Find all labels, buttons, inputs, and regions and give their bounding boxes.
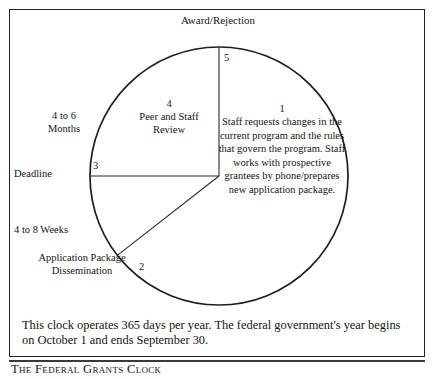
segment-4-text: 4 Peer and Staff Review — [112, 98, 226, 136]
boundary-number-3: 3 — [93, 160, 98, 171]
label-application-package-dissemination: Application Package Dissemination — [12, 252, 152, 278]
figure-note: This clock operates 365 days per year. T… — [22, 318, 414, 349]
figure-caption: The Federal Grants Clock — [11, 362, 311, 377]
radius-line-2 — [117, 176, 219, 255]
label-award-rejection: Award/Rejection — [118, 14, 318, 27]
segment-1-text: 1 Staff requests changes in the current … — [216, 102, 348, 196]
boundary-number-5: 5 — [224, 52, 229, 63]
label-4-to-8-weeks: 4 to 8 Weeks — [14, 224, 114, 237]
boundary-number-2: 2 — [139, 261, 144, 272]
label-deadline: Deadline — [14, 168, 94, 181]
label-4-to-6-months: 4 to 6 Months — [18, 110, 110, 136]
federal-grants-clock-figure: Award/Rejection 4 to 6 Months Deadline 4… — [0, 0, 435, 379]
